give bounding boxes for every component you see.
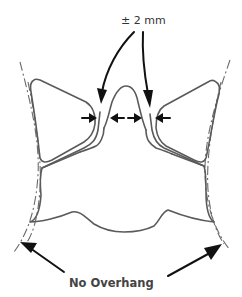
right-tolerance-arrowhead — [143, 90, 153, 108]
right-overhang-arrowhead — [204, 244, 222, 260]
right-overhang-arrow — [168, 254, 208, 276]
gap-arrow-center-right — [128, 113, 142, 123]
right-wing-shape — [156, 81, 220, 163]
right-channel-line — [150, 114, 204, 166]
left-tolerance-arrow — [102, 32, 134, 92]
bottom-base-shape — [30, 152, 214, 232]
gap-arrow-center-left — [110, 113, 124, 123]
center-keystone-shape — [104, 86, 146, 130]
no-overhang-label: No Overhang — [69, 276, 154, 290]
fit-diagram — [0, 0, 242, 297]
left-overhang-arrow — [30, 248, 64, 272]
tolerance-label: ± 2 mm — [121, 14, 166, 27]
left-tolerance-arrowhead — [97, 88, 107, 104]
right-tolerance-arrow — [143, 32, 148, 94]
